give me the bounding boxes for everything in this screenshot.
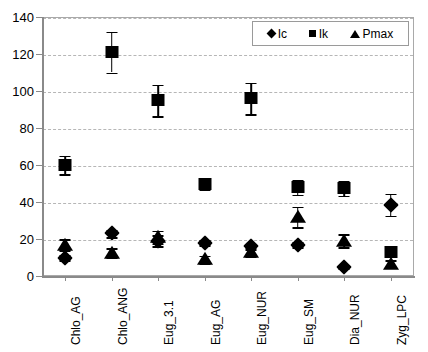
data-point-ik (105, 46, 118, 58)
y-axis-line (42, 17, 44, 277)
data-point-ik (291, 181, 304, 193)
legend-label: Ic (278, 28, 287, 40)
error-bar-cap (339, 247, 350, 249)
x-axis-tick (251, 276, 252, 281)
x-axis-tick-label: Dia_NUR (349, 294, 361, 345)
error-bar-cap (246, 114, 257, 116)
gridline (43, 92, 413, 93)
y-axis-tick (36, 91, 42, 92)
data-point-ik (59, 159, 72, 171)
x-axis-tick (391, 276, 392, 281)
x-axis-tick (158, 276, 159, 281)
error-bar-cap (292, 207, 303, 209)
y-axis-tick-label: 100 (0, 85, 34, 98)
x-axis-tick (112, 276, 113, 281)
gridline (43, 240, 413, 241)
y-axis-tick-label: 120 (0, 48, 34, 61)
x-axis-tick-label: Chlo_ANG (117, 288, 129, 345)
plot-area (42, 17, 414, 276)
data-point-ik (338, 182, 351, 194)
chart-legend: IcIkPmax (252, 21, 409, 46)
x-axis-tick-label: Eug_3.1 (163, 300, 175, 345)
data-point-pmax (290, 210, 306, 223)
gridline (43, 166, 413, 167)
gridline (43, 203, 413, 204)
error-bar-cap (385, 216, 396, 218)
legend-label: Pmax (363, 28, 394, 40)
error-bar-cap (339, 196, 350, 198)
x-axis-tick-label: Zyg_LPC (396, 295, 408, 345)
data-point-ik (245, 92, 258, 104)
error-bar-cap (246, 83, 257, 85)
legend-label: Ik (319, 28, 328, 40)
data-point-ik (198, 178, 211, 190)
y-axis-tick (36, 239, 42, 240)
x-axis-tick-label: Eug_SM (303, 299, 315, 345)
y-axis-tick-label: 60 (0, 159, 34, 172)
diamond-marker-icon (266, 29, 276, 39)
data-point-pmax (243, 245, 259, 258)
legend-item-ic[interactable]: Ic (268, 28, 287, 40)
x-axis-tick-label: Eug_AG (210, 300, 222, 345)
data-point-pmax (336, 234, 352, 247)
x-axis-tick (344, 276, 345, 281)
y-axis-tick-label: 80 (0, 122, 34, 135)
gridline (43, 18, 413, 19)
data-point-pmax (150, 230, 166, 243)
y-axis-tick-label: 140 (0, 11, 34, 24)
error-bar-cap (292, 227, 303, 229)
y-axis-tick (36, 276, 42, 277)
error-bar-cap (106, 73, 117, 75)
y-axis-tick (36, 17, 42, 18)
y-axis-tick (36, 54, 42, 55)
error-bar-cap (153, 85, 164, 87)
y-axis-tick (36, 128, 42, 129)
x-axis-line (42, 276, 415, 278)
data-point-pmax (383, 257, 399, 270)
legend-item-pmax[interactable]: Pmax (350, 28, 394, 40)
error-bar-cap (153, 244, 164, 246)
y-axis-tick (36, 165, 42, 166)
x-axis-tick (205, 276, 206, 281)
x-axis-tick-label: Eug_NUR (256, 291, 268, 345)
error-bar-cap (153, 116, 164, 118)
y-axis-tick (36, 202, 42, 203)
gridline (43, 129, 413, 130)
error-bar-cap (60, 174, 71, 176)
data-point-ik (152, 94, 165, 106)
chart-container: 020406080100120140 Chlo_AGChlo_ANGEug_3.… (0, 0, 428, 352)
y-axis-tick-label: 40 (0, 196, 34, 209)
data-point-pmax (57, 237, 73, 250)
square-marker-icon (309, 30, 316, 37)
error-bar-cap (106, 32, 117, 34)
error-bar-cap (385, 194, 396, 196)
data-point-pmax (197, 252, 213, 265)
legend-item-ik[interactable]: Ik (309, 28, 328, 40)
error-bar-cap (60, 156, 71, 158)
error-bar-cap (292, 195, 303, 197)
x-axis-tick (298, 276, 299, 281)
triangle-marker-icon (350, 30, 360, 38)
y-axis-tick-label: 20 (0, 233, 34, 246)
y-axis-tick-label: 0 (0, 270, 34, 283)
data-point-pmax (104, 246, 120, 259)
x-axis-tick-label: Chlo_AG (70, 296, 82, 345)
x-axis-tick (65, 276, 66, 281)
gridline (43, 55, 413, 56)
